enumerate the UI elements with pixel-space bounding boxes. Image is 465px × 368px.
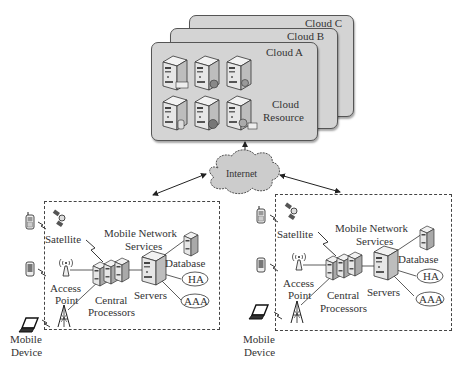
internet-label: Internet — [226, 168, 257, 180]
left-access-label-2: Point — [55, 294, 78, 306]
right-mns-label-2: Services — [356, 235, 393, 247]
left-aaa-label: AAA — [184, 295, 208, 307]
left-access-label-1: Access — [50, 282, 81, 294]
right-access-label-1: Access — [283, 277, 314, 289]
right-device-label-1: Mobile — [243, 333, 275, 345]
left-central-label-2: Processors — [88, 306, 135, 318]
right-aaa-label: AAA — [419, 293, 443, 305]
right-central-label-1: Central — [327, 289, 359, 301]
right-mns-label-1: Mobile Network — [335, 222, 408, 234]
left-mns-label-2: Services — [125, 240, 162, 252]
right-servers-label: Servers — [367, 286, 400, 298]
right-access-label-2: Point — [288, 289, 311, 301]
right-ha-label: HA — [423, 270, 439, 282]
left-satellite-label: Satellite — [45, 233, 81, 245]
left-device-label-2: Device — [11, 346, 42, 358]
left-central-label-1: Central — [95, 294, 127, 306]
right-central-label-2: Processors — [320, 302, 367, 314]
left-device-label-1: Mobile — [10, 333, 42, 345]
left-database-label: Database — [165, 257, 205, 269]
right-database-label: Database — [398, 253, 438, 265]
right-device-label-2: Device — [244, 346, 275, 358]
left-servers-label: Servers — [134, 289, 167, 301]
right-satellite-label: Satellite — [277, 228, 313, 240]
left-ha-label: HA — [188, 273, 204, 285]
left-mns-label-1: Mobile Network — [104, 227, 177, 239]
